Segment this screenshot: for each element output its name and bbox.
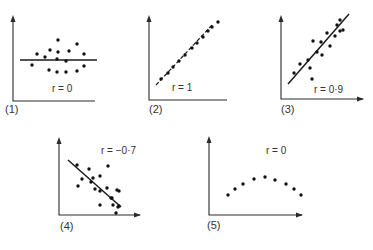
- data-point: [93, 187, 96, 190]
- data-point: [56, 50, 59, 53]
- scatter-panel-4: r = −0·7(4): [57, 137, 142, 232]
- r-annotation: r = 1: [172, 82, 193, 93]
- panel-label: (1): [5, 103, 18, 115]
- data-point: [87, 167, 90, 170]
- data-point: [47, 68, 50, 71]
- r-annotation: r = 0: [266, 145, 287, 156]
- data-point: [341, 28, 344, 31]
- data-point: [284, 182, 287, 185]
- data-point: [338, 29, 341, 32]
- data-point: [292, 71, 295, 74]
- data-point: [190, 46, 193, 49]
- data-point: [91, 176, 94, 179]
- scatter-panels: r = 0(1)r = 1(2)r = 0·9(3)r = −0·7(4)r =…: [0, 0, 373, 250]
- y-arrow-icon: [147, 15, 152, 22]
- data-point: [319, 40, 322, 43]
- y-arrow-icon: [279, 15, 284, 22]
- data-point: [299, 193, 302, 196]
- data-point: [241, 182, 244, 185]
- data-point: [35, 52, 38, 55]
- data-point: [292, 187, 295, 190]
- scatter-panel-5: r = 0(5): [207, 136, 304, 231]
- data-point: [111, 203, 114, 206]
- data-point: [75, 42, 78, 45]
- data-point: [48, 48, 51, 51]
- data-point: [195, 41, 198, 44]
- scatter-panel-1: r = 0(1): [5, 15, 97, 115]
- data-point: [55, 70, 58, 73]
- data-point: [110, 196, 113, 199]
- correlation-figure: r = 0(1)r = 1(2)r = 0·9(3)r = −0·7(4)r =…: [0, 0, 373, 250]
- data-point: [306, 58, 309, 61]
- data-point: [310, 77, 313, 80]
- y-arrow-icon: [57, 137, 62, 144]
- panel-label: (4): [60, 220, 73, 232]
- data-point: [335, 23, 338, 26]
- data-point: [30, 63, 33, 66]
- fit-line: [68, 160, 121, 207]
- data-point: [171, 65, 174, 68]
- x-arrow-icon: [134, 213, 141, 218]
- x-arrow-icon: [296, 213, 303, 218]
- axes: [209, 140, 302, 215]
- data-point: [308, 66, 311, 69]
- data-point: [333, 34, 336, 37]
- data-point: [64, 59, 67, 62]
- data-point: [338, 18, 341, 21]
- data-point: [252, 177, 255, 180]
- data-point: [320, 53, 323, 56]
- y-arrow-icon: [11, 15, 16, 22]
- data-point: [311, 39, 314, 42]
- data-point: [64, 70, 67, 73]
- data-point: [117, 204, 120, 207]
- data-point: [75, 163, 78, 166]
- data-point: [206, 29, 209, 32]
- data-point: [67, 49, 70, 52]
- fit-line: [288, 14, 349, 84]
- data-point: [98, 189, 101, 192]
- data-point: [315, 50, 318, 53]
- data-point: [43, 55, 46, 58]
- data-point: [55, 57, 58, 60]
- data-point: [273, 178, 276, 181]
- data-point: [56, 38, 59, 41]
- data-point: [183, 53, 186, 56]
- data-point: [98, 174, 101, 177]
- r-annotation: r = 0: [52, 83, 73, 94]
- data-point: [117, 189, 120, 192]
- panel-label: (2): [149, 103, 162, 115]
- data-point: [105, 186, 108, 189]
- data-point: [325, 31, 328, 34]
- data-point: [166, 71, 169, 74]
- panel-label: (3): [281, 103, 294, 115]
- data-point: [210, 25, 213, 28]
- scatter-panel-3: r = 0·9(3): [279, 14, 365, 115]
- data-point: [159, 77, 162, 80]
- scatter-panel-2: r = 1(2): [147, 15, 228, 115]
- data-point: [226, 193, 229, 196]
- data-point: [263, 175, 266, 178]
- data-point: [75, 69, 78, 72]
- data-point: [114, 211, 117, 214]
- data-point: [82, 52, 85, 55]
- data-point: [82, 64, 85, 67]
- y-arrow-icon: [207, 136, 212, 143]
- r-annotation: r = 0·9: [314, 84, 344, 95]
- data-point: [89, 180, 92, 183]
- data-point: [233, 187, 236, 190]
- data-point: [106, 164, 109, 167]
- data-point: [80, 177, 83, 180]
- panel-label: (5): [207, 219, 220, 231]
- data-point: [98, 203, 101, 206]
- r-annotation: r = −0·7: [101, 145, 136, 156]
- data-point: [201, 35, 204, 38]
- x-arrow-icon: [357, 97, 364, 102]
- data-point: [328, 44, 331, 47]
- data-point: [298, 62, 301, 65]
- data-point: [177, 59, 180, 62]
- data-point: [216, 20, 219, 23]
- data-point: [76, 184, 79, 187]
